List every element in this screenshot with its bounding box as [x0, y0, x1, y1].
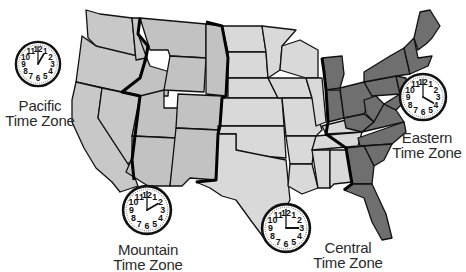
svg-text:4: 4: [158, 213, 163, 223]
pacific-clock: 121234567891011: [14, 40, 62, 88]
clock-icon: 121234567891011: [398, 72, 448, 122]
svg-text:7: 7: [413, 105, 418, 115]
svg-text:4: 4: [48, 67, 53, 76]
state-maine: [414, 10, 440, 50]
pacific-zone-label: Pacific Time Zone: [0, 98, 80, 128]
clock-icon: 121234567891011: [14, 40, 62, 88]
state-wisconsin: [280, 40, 318, 78]
clock-icon: 121234567891011: [121, 184, 173, 236]
svg-text:6: 6: [421, 107, 426, 117]
state-louisiana: [288, 164, 318, 194]
central-zone-name: Central: [310, 240, 386, 255]
state-north-dakota: [222, 26, 266, 52]
mountain-zone-label: Mountain Time Zone: [104, 242, 192, 272]
svg-text:7: 7: [137, 219, 142, 229]
eastern-clock: 121234567891011: [398, 72, 448, 122]
svg-text:6: 6: [36, 74, 41, 83]
eastern-zone-name: Eastern: [388, 130, 466, 145]
state-new-mexico: [170, 128, 218, 186]
pacific-zone-suffix: Time Zone: [0, 113, 80, 128]
svg-text:5: 5: [43, 72, 48, 81]
svg-text:5: 5: [152, 219, 157, 229]
svg-text:6: 6: [284, 239, 289, 249]
svg-text:1: 1: [291, 210, 296, 220]
state-colorado: [176, 94, 222, 130]
svg-text:11: 11: [26, 47, 35, 56]
svg-text:6: 6: [145, 221, 150, 231]
svg-text:11: 11: [411, 79, 420, 89]
svg-text:1: 1: [428, 79, 433, 89]
svg-text:11: 11: [135, 192, 144, 202]
state-kansas: [220, 98, 284, 126]
svg-text:5: 5: [291, 237, 296, 247]
pacific-zone-name: Pacific: [0, 98, 80, 113]
state-montana: [140, 18, 206, 58]
state-florida: [344, 184, 392, 240]
svg-text:7: 7: [276, 237, 281, 247]
svg-text:4: 4: [434, 100, 439, 110]
clock-icon: 121234567891011: [260, 202, 312, 254]
svg-text:11: 11: [274, 210, 283, 220]
state-wyoming: [164, 56, 206, 92]
svg-text:4: 4: [297, 231, 302, 241]
central-clock: 121234567891011: [260, 202, 312, 254]
mountain-clock: 121234567891011: [121, 184, 173, 236]
svg-text:1: 1: [152, 192, 157, 202]
eastern-zone-suffix: Time Zone: [388, 145, 466, 160]
central-zone-label: Central Time Zone: [310, 240, 386, 270]
svg-text:7: 7: [29, 72, 34, 81]
eastern-zone-label: Eastern Time Zone: [388, 130, 466, 160]
central-zone-suffix: Time Zone: [310, 255, 386, 270]
mountain-zone-name: Mountain: [104, 242, 192, 257]
state-south-dakota: [228, 52, 268, 78]
mountain-zone-suffix: Time Zone: [104, 257, 192, 272]
svg-text:5: 5: [428, 105, 433, 115]
